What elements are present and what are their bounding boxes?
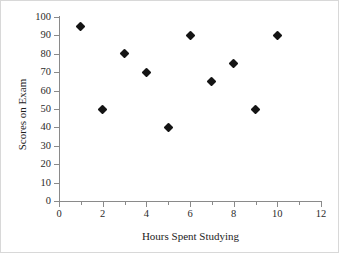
data-point	[163, 122, 173, 132]
x-tick-mark	[190, 202, 191, 207]
x-minor-tick-mark	[81, 202, 82, 205]
y-tick-label: 90	[17, 30, 51, 41]
y-tick-mark	[54, 183, 59, 184]
x-tick-label: 4	[131, 209, 161, 220]
y-tick-mark	[54, 17, 59, 18]
x-tick-mark	[146, 202, 147, 207]
y-axis-title: Scores on Exam	[17, 45, 28, 185]
y-tick-mark	[54, 54, 59, 55]
y-tick-mark	[54, 91, 59, 92]
y-tick-mark	[54, 72, 59, 73]
scatter-plot-figure: 0102030405060708090100 024681012 Hours S…	[0, 0, 339, 253]
data-point	[251, 104, 261, 114]
data-point	[272, 30, 282, 40]
data-point	[207, 76, 217, 86]
data-point	[141, 67, 151, 77]
x-minor-tick-mark	[168, 202, 169, 205]
y-tick-mark	[54, 127, 59, 128]
x-minor-tick-mark	[212, 202, 213, 205]
x-tick-label: 10	[262, 209, 292, 220]
y-tick-mark	[54, 164, 59, 165]
x-minor-tick-mark	[256, 202, 257, 205]
x-tick-label: 8	[219, 209, 249, 220]
x-minor-tick-mark	[299, 202, 300, 205]
x-tick-label: 6	[175, 209, 205, 220]
y-tick-label: 0	[17, 196, 51, 207]
y-axis-line	[59, 16, 60, 202]
x-tick-label: 12	[306, 209, 336, 220]
y-tick-mark	[54, 109, 59, 110]
y-tick-mark	[54, 35, 59, 36]
x-tick-mark	[277, 202, 278, 207]
data-point	[98, 104, 108, 114]
x-minor-tick-mark	[125, 202, 126, 205]
data-point	[76, 21, 86, 31]
x-tick-mark	[234, 202, 235, 207]
y-tick-mark	[54, 146, 59, 147]
data-point	[229, 58, 239, 68]
data-point	[185, 30, 195, 40]
y-tick-label: 100	[17, 12, 51, 23]
x-tick-label: 0	[44, 209, 74, 220]
x-tick-mark	[59, 202, 60, 207]
x-tick-mark	[321, 202, 322, 207]
x-axis-title: Hours Spent Studying	[1, 231, 338, 242]
data-point	[120, 49, 130, 59]
x-tick-label: 2	[88, 209, 118, 220]
x-tick-mark	[103, 202, 104, 207]
